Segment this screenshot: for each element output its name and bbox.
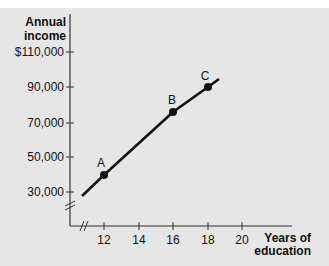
point-b-label: B (168, 93, 176, 107)
chart-panel: Annual income $110,000 90,000 70,000 50,… (0, 8, 329, 266)
y-tick-label: $110,000 (15, 45, 64, 59)
x-axis-title-line2: education (254, 244, 311, 258)
point-b-marker (169, 108, 177, 116)
x-tick-label: 18 (201, 233, 215, 247)
y-tick-label: 30,000 (27, 185, 64, 199)
y-axis-title-line1: Annual (25, 15, 66, 29)
x-tick-label: 14 (132, 233, 146, 247)
point-a-marker (100, 171, 108, 179)
y-tick-label: 50,000 (27, 150, 64, 164)
y-tick-label: 70,000 (27, 116, 64, 130)
point-a-label: A (97, 156, 105, 170)
y-tick-label: 90,000 (27, 80, 64, 94)
income-education-chart: Annual income $110,000 90,000 70,000 50,… (0, 8, 329, 266)
x-tick-label: 20 (235, 233, 249, 247)
y-axis-title-line2: income (24, 29, 66, 43)
point-c-label: C (201, 69, 210, 83)
x-axis-title-line1: Years of (264, 231, 312, 245)
x-tick-label: 12 (97, 233, 111, 247)
x-tick-label: 16 (166, 233, 180, 247)
point-c-marker (204, 83, 212, 91)
